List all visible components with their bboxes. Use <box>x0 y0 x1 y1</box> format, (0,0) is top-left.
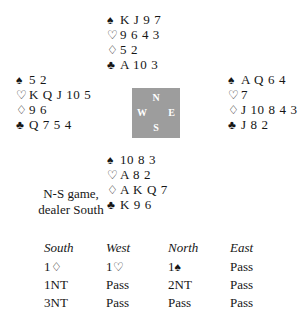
hand-east-diamonds: ♢ J 10 8 4 3 <box>228 102 298 117</box>
auction-header-east: East <box>230 240 292 259</box>
hand-east-spades-cards: A Q 6 4 <box>241 72 286 87</box>
compass-west-label: W <box>137 108 147 118</box>
auction-bid-south: 1♢ <box>44 259 106 277</box>
hand-west-spades: ♠ 5 2 <box>16 72 91 87</box>
spade-icon: ♠ <box>107 153 120 168</box>
hand-east-clubs: ♣ J 8 2 <box>228 117 298 132</box>
bridge-deal-diagram: ♠ K J 9 7 ♡ 9 6 4 3 ♢ 5 2 ♣ A 10 3 ♠ 5 2… <box>0 0 307 232</box>
hand-east-diamonds-cards: J 10 8 4 3 <box>241 102 298 117</box>
heart-icon: ♡ <box>107 168 120 183</box>
hand-north-hearts-cards: 9 6 4 3 <box>120 27 160 42</box>
hand-north-hearts: ♡ 9 6 4 3 <box>107 27 161 42</box>
auction-bid-south: 1NT <box>44 277 106 295</box>
diamond-icon: ♢ <box>228 103 241 118</box>
auction-bid-west: Pass <box>106 277 168 295</box>
hand-north-spades-cards: K J 9 7 <box>120 12 161 27</box>
heart-icon: ♡ <box>16 88 29 103</box>
hand-north-clubs: ♣ A 10 3 <box>107 57 161 72</box>
hand-south-spades: ♠ 10 8 3 <box>107 152 168 167</box>
auction-bid-east: Pass <box>230 295 292 313</box>
hand-north-diamonds-cards: 5 2 <box>120 42 138 57</box>
auction-bid-west: Pass <box>106 295 168 313</box>
diamond-icon: ♢ <box>16 103 29 118</box>
auction-bid-east: Pass <box>230 277 292 295</box>
auction-row: 1NTPass2NTPass <box>44 277 292 295</box>
auction-bid-north: 2NT <box>168 277 230 295</box>
vulnerability-text: N-S game, <box>0 186 142 202</box>
compass-east-label: E <box>168 108 175 118</box>
dealer-text: dealer South <box>0 202 142 218</box>
bid-suit-icon: ♢ <box>51 260 62 274</box>
hand-west-clubs: ♣ Q 7 5 4 <box>16 117 91 132</box>
hand-south-spades-cards: 10 8 3 <box>120 152 156 167</box>
hand-east-hearts: ♡ 7 <box>228 87 298 102</box>
auction-header-row: South West North East <box>44 240 292 259</box>
bid-suit-icon: ♠ <box>175 260 181 274</box>
auction-bid-north: 1♠ <box>168 259 230 277</box>
spade-icon: ♠ <box>228 73 241 88</box>
auction-header-north: North <box>168 240 230 259</box>
compass-north-label: N <box>152 93 159 103</box>
auction-bid-west: 1♡ <box>106 259 168 277</box>
bid-suit-icon: ♡ <box>113 260 124 274</box>
auction-section: South West North East 1♢1♡1♠Pass1NTPass2… <box>0 240 307 313</box>
hand-east-clubs-cards: J 8 2 <box>241 117 269 132</box>
spade-icon: ♠ <box>107 13 120 28</box>
hand-west-clubs-cards: Q 7 5 4 <box>29 117 72 132</box>
heart-icon: ♡ <box>107 28 120 43</box>
auction-row: 1♢1♡1♠Pass <box>44 259 292 277</box>
heart-icon: ♡ <box>228 88 241 103</box>
auction-bid-south: 3NT <box>44 295 106 313</box>
auction-header-south: South <box>44 240 106 259</box>
hand-east-spades: ♠ A Q 6 4 <box>228 72 298 87</box>
hand-north-spades: ♠ K J 9 7 <box>107 12 161 27</box>
auction-table: South West North East 1♢1♡1♠Pass1NTPass2… <box>44 240 292 313</box>
hand-north-diamonds: ♢ 5 2 <box>107 42 161 57</box>
compass-south-label: S <box>153 123 159 133</box>
hand-west-diamonds: ♢ 9 6 <box>16 102 91 117</box>
hand-west-spades-cards: 5 2 <box>29 72 47 87</box>
hand-west-hearts-cards: K Q J 10 5 <box>29 87 91 102</box>
club-icon: ♣ <box>107 58 120 73</box>
auction-bid-north: Pass <box>168 295 230 313</box>
hand-north: ♠ K J 9 7 ♡ 9 6 4 3 ♢ 5 2 ♣ A 10 3 <box>107 12 161 72</box>
club-icon: ♣ <box>228 118 241 133</box>
hand-south-hearts-cards: A 8 2 <box>120 167 151 182</box>
hand-east: ♠ A Q 6 4 ♡ 7 ♢ J 10 8 4 3 ♣ J 8 2 <box>228 72 298 132</box>
club-icon: ♣ <box>16 118 29 133</box>
compass-rose: N W E S <box>132 88 180 138</box>
diamond-icon: ♢ <box>107 43 120 58</box>
hand-west: ♠ 5 2 ♡ K Q J 10 5 ♢ 9 6 ♣ Q 7 5 4 <box>16 72 91 132</box>
auction-body: 1♢1♡1♠Pass1NTPass2NTPass3NTPassPassPass <box>44 259 292 313</box>
hand-north-clubs-cards: A 10 3 <box>120 57 158 72</box>
hand-south-hearts: ♡ A 8 2 <box>107 167 168 182</box>
auction-bid-east: Pass <box>230 259 292 277</box>
auction-row: 3NTPassPassPass <box>44 295 292 313</box>
hand-west-hearts: ♡ K Q J 10 5 <box>16 87 91 102</box>
auction-header-west: West <box>106 240 168 259</box>
hand-west-diamonds-cards: 9 6 <box>29 102 47 117</box>
deal-conditions: N-S game, dealer South <box>0 186 142 218</box>
hand-east-hearts-cards: 7 <box>241 87 248 102</box>
spade-icon: ♠ <box>16 73 29 88</box>
